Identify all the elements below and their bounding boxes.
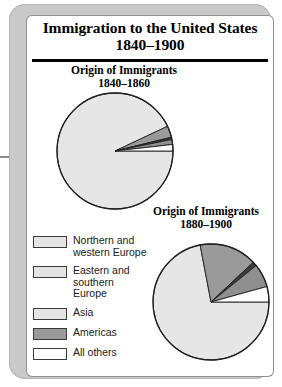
page-title-line1: Immigration to the United States [27, 19, 273, 36]
chart-1-subtitle: Origin of Immigrants 1840–1860 [39, 64, 209, 89]
page-title: Immigration to the United States 1840–19… [27, 19, 273, 53]
legend-label-eastern-southern-europe: Eastern and southern Europe [73, 265, 130, 300]
legend-item-northern-western-europe: Northern and western Europe [33, 235, 153, 258]
legend-label-asia: Asia [73, 307, 93, 319]
legend-label-northern-western-europe: Northern and western Europe [73, 235, 147, 258]
legend-item-all-others: All others [33, 347, 153, 360]
page-title-line2: 1840–1900 [27, 36, 273, 53]
legend-swatch-americas [33, 328, 67, 340]
legend-swatch-northern-western-europe [33, 236, 67, 248]
title-divider [32, 59, 268, 62]
card-frame: Immigration to the United States 1840–19… [9, 4, 271, 379]
pie-chart-1840-1860 [53, 89, 177, 213]
card-inner: Immigration to the United States 1840–19… [27, 16, 273, 376]
legend-label-americas: Americas [73, 327, 117, 339]
legend-label-all-others: All others [73, 347, 117, 359]
legend-swatch-asia [33, 308, 67, 320]
screenshot-root: Immigration to the United States 1840–19… [0, 0, 282, 387]
legend-swatch-eastern-southern-europe [33, 266, 67, 278]
legend-swatch-all-others [33, 348, 67, 360]
legend-item-americas: Americas [33, 327, 153, 340]
legend-item-eastern-southern-europe: Eastern and southern Europe [33, 265, 153, 300]
legend-item-asia: Asia [33, 307, 153, 320]
pie-chart-1880-1900 [149, 240, 273, 364]
legend: Northern and western Europe Eastern and … [33, 235, 153, 367]
